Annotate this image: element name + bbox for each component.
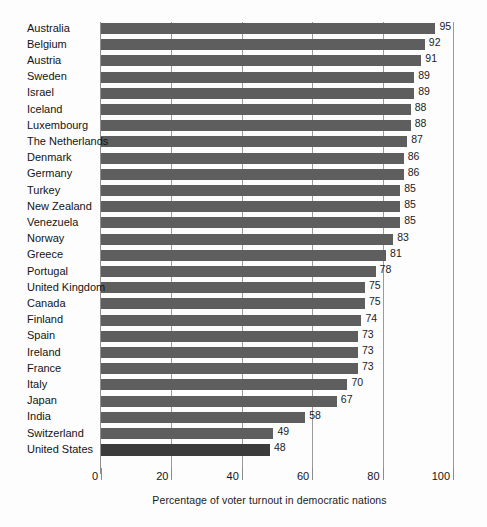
bar-row: 75	[101, 281, 453, 297]
bar-value-label: 85	[404, 214, 416, 226]
category-label: Germany	[27, 167, 72, 179]
bar	[101, 201, 400, 212]
bar-value-label: 75	[369, 279, 381, 291]
bar-row: 92	[101, 38, 453, 54]
bar-value-label: 67	[341, 393, 353, 405]
bar	[101, 282, 365, 293]
bar	[101, 250, 386, 261]
category-label: France	[27, 362, 61, 374]
bar	[101, 120, 411, 131]
category-label: Norway	[27, 232, 64, 244]
category-label: Israel	[27, 86, 54, 98]
bar-value-label: 85	[404, 198, 416, 210]
bar-value-label: 88	[415, 101, 427, 113]
category-label: Austria	[27, 54, 61, 66]
bar	[101, 379, 347, 390]
x-tick-mark	[453, 468, 454, 480]
category-label: Iceland	[27, 103, 62, 115]
bar-value-label: 81	[390, 247, 402, 259]
category-label: Turkey	[27, 184, 60, 196]
category-label: Spain	[27, 329, 55, 341]
bar-row: 74	[101, 314, 453, 330]
bar	[101, 88, 414, 99]
bar	[101, 153, 404, 164]
bar-chart: 9592918989888887868685858583817875757473…	[0, 0, 487, 527]
x-axis-title: Percentage of voter turnout in democrati…	[0, 494, 487, 506]
bar-value-label: 88	[415, 117, 427, 129]
bar-value-label: 73	[362, 344, 374, 356]
bar-row: 48	[101, 443, 453, 459]
category-label: Finland	[27, 313, 63, 325]
bar-value-label: 75	[369, 295, 381, 307]
bar	[101, 396, 337, 407]
bar	[101, 104, 411, 115]
gridline	[453, 22, 454, 468]
category-label: United Kingdom	[27, 281, 105, 293]
category-label: Belgium	[27, 38, 67, 50]
category-label: The Netherlands	[27, 135, 108, 147]
bar	[101, 315, 361, 326]
bar-row: 67	[101, 395, 453, 411]
category-label: Japan	[27, 394, 57, 406]
plot-area: 9592918989888887868685858583817875757473…	[101, 22, 453, 468]
bar-row: 88	[101, 103, 453, 119]
bar-row: 73	[101, 362, 453, 378]
bar	[101, 217, 400, 228]
bar-row: 89	[101, 87, 453, 103]
bar-row: 87	[101, 135, 453, 151]
x-tick-label: 40	[227, 470, 242, 482]
category-label: Greece	[27, 248, 63, 260]
bar-value-label: 87	[411, 133, 423, 145]
bar	[101, 23, 435, 34]
bar-value-label: 58	[309, 409, 321, 421]
category-axis: AustraliaBelgiumAustriaSwedenIsraelIcela…	[0, 22, 98, 468]
bar-value-label: 49	[277, 425, 289, 437]
bar-value-label: 83	[397, 231, 409, 243]
bar-row: 91	[101, 54, 453, 70]
category-label: Canada	[27, 297, 66, 309]
bar	[101, 363, 358, 374]
bar	[101, 412, 305, 423]
bar	[101, 55, 421, 66]
bar-row: 85	[101, 184, 453, 200]
bar	[101, 185, 400, 196]
bar-value-label: 86	[408, 166, 420, 178]
bar	[101, 266, 376, 277]
category-label: Venezuela	[27, 216, 78, 228]
x-tick-mark	[312, 468, 313, 480]
category-label: Switzerland	[27, 427, 84, 439]
bar-row: 88	[101, 119, 453, 135]
bar-row: 73	[101, 346, 453, 362]
category-label: Australia	[27, 22, 70, 34]
category-label: Denmark	[27, 151, 72, 163]
bar-row: 73	[101, 330, 453, 346]
bar-row: 78	[101, 265, 453, 281]
bar	[101, 39, 425, 50]
y-axis-line	[100, 22, 101, 474]
bar-row: 70	[101, 378, 453, 394]
bar-value-label: 70	[351, 376, 363, 388]
x-axis-title-text: Percentage of voter turnout in democrati…	[152, 494, 386, 506]
category-label: Italy	[27, 378, 47, 390]
category-label: Luxembourg	[27, 119, 88, 131]
bar	[101, 331, 358, 342]
category-label: Ireland	[27, 346, 61, 358]
bar-value-label: 86	[408, 150, 420, 162]
bar	[101, 444, 270, 456]
bar-row: 85	[101, 200, 453, 216]
category-label: Portugal	[27, 265, 68, 277]
bar-value-label: 73	[362, 360, 374, 372]
bar-row: 95	[101, 22, 453, 38]
category-label: New Zealand	[27, 200, 92, 212]
bar	[101, 298, 365, 309]
bar-value-label: 78	[380, 263, 392, 275]
x-tick-mark	[383, 468, 384, 480]
bar-value-label: 73	[362, 328, 374, 340]
bar	[101, 347, 358, 358]
x-tick-mark	[171, 468, 172, 480]
x-tick-label: 0	[92, 470, 101, 482]
bar	[101, 428, 273, 439]
x-tick-label: 80	[367, 470, 382, 482]
bar	[101, 72, 414, 83]
x-tick-label: 60	[297, 470, 312, 482]
